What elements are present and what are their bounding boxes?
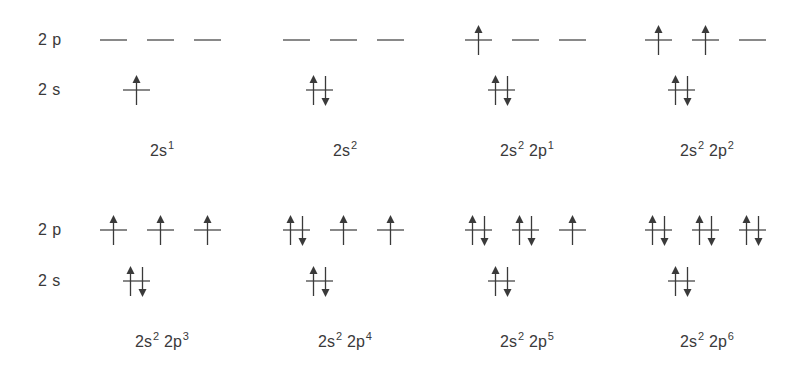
orbital-2s	[123, 266, 150, 297]
caption-exponent: 2	[336, 330, 342, 342]
configuration-caption: 2s1	[150, 142, 174, 161]
caption-base: 2p	[709, 142, 727, 159]
caption-base: 2s	[500, 142, 517, 159]
caption-exponent: 2	[698, 139, 704, 151]
caption-exponent: 2	[698, 330, 704, 342]
caption-exponent: 3	[183, 330, 189, 342]
orbital-2s	[488, 75, 515, 106]
caption-base: 2s	[500, 333, 517, 350]
caption-base: 2s	[680, 333, 697, 350]
caption-base: 2s	[318, 333, 335, 350]
orbital-2s	[123, 75, 150, 105]
orbital-2s	[306, 75, 333, 106]
configuration-caption: 2s22p5	[500, 333, 554, 352]
caption-exponent: 2	[728, 139, 734, 151]
orbital-label-2s-row2: 2 s	[38, 273, 61, 289]
orbital-2s	[488, 266, 515, 297]
orbital-2p	[194, 215, 221, 245]
caption-exponent: 6	[728, 330, 734, 342]
orbital-label-2p-row1: 2 p	[38, 32, 62, 48]
config-panel	[283, 40, 404, 106]
orbital-diagram-canvas	[0, 0, 796, 366]
caption-exponent: 5	[548, 330, 554, 342]
caption-base: 2p	[164, 333, 182, 350]
configuration-caption: 2s22p4	[318, 333, 372, 352]
orbital-2p	[147, 215, 174, 245]
orbital-2p	[559, 215, 586, 245]
orbital-2p	[645, 25, 672, 55]
configuration-caption: 2s22p6	[680, 333, 734, 352]
caption-base: 2p	[529, 333, 547, 350]
orbital-2p	[692, 25, 719, 55]
caption-base: 2p	[529, 142, 547, 159]
config-panel	[100, 40, 221, 105]
caption-exponent: 2	[153, 330, 159, 342]
caption-base: 2p	[347, 333, 365, 350]
caption-exponent: 2	[518, 139, 524, 151]
configuration-caption: 2s22p2	[680, 142, 734, 161]
caption-base: 2s	[135, 333, 152, 350]
orbital-2p	[377, 215, 404, 245]
caption-base: 2s	[680, 142, 697, 159]
orbital-2p	[512, 215, 539, 246]
orbital-2s	[306, 266, 333, 297]
orbital-2p	[739, 215, 766, 246]
caption-exponent: 1	[548, 139, 554, 151]
orbital-2p	[465, 215, 492, 246]
config-panel	[465, 215, 586, 297]
orbital-label-2s-row1: 2 s	[38, 82, 61, 98]
config-panel	[283, 215, 404, 297]
configuration-caption: 2s2	[333, 142, 357, 161]
config-panel	[100, 215, 221, 297]
orbital-2s	[668, 75, 695, 106]
orbital-2p	[100, 215, 127, 245]
caption-exponent: 2	[518, 330, 524, 342]
orbital-2p	[645, 215, 672, 246]
config-panel	[645, 215, 766, 297]
caption-base: 2s	[150, 142, 167, 159]
caption-exponent: 2	[351, 139, 357, 151]
config-panel	[465, 25, 586, 106]
config-panel	[645, 25, 766, 106]
caption-base: 2p	[709, 333, 727, 350]
configuration-caption: 2s22p1	[500, 142, 554, 161]
orbital-label-2p-row2: 2 p	[38, 222, 62, 238]
orbital-2p	[283, 215, 310, 246]
orbital-2p	[692, 215, 719, 246]
orbital-2p	[330, 215, 357, 245]
configuration-caption: 2s22p3	[135, 333, 189, 352]
caption-base: 2s	[333, 142, 350, 159]
orbital-2s	[668, 266, 695, 297]
orbital-2p	[465, 25, 492, 55]
caption-exponent: 1	[168, 139, 174, 151]
caption-exponent: 4	[366, 330, 372, 342]
